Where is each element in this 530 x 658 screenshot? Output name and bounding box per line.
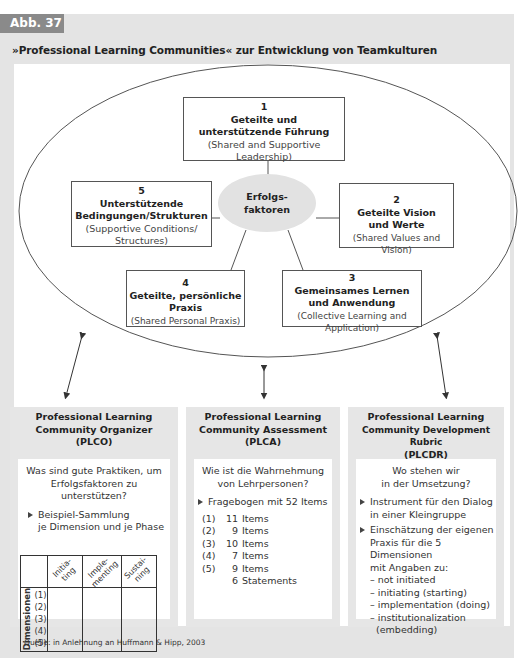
dimension-row-label: (3) bbox=[35, 613, 47, 625]
question-line: Wo stehen wir bbox=[356, 465, 496, 478]
panel-title-line: Community Assessment bbox=[186, 424, 340, 437]
panel-title-line: Professional Learning bbox=[348, 411, 504, 424]
dimension-label-en: (Shared and Supportive bbox=[184, 139, 344, 152]
panel-body: Was sind gute Praktiken, um Erfolgsfakto… bbox=[18, 459, 170, 619]
bullet-text: Praxis für die 5 Dimensionen bbox=[370, 537, 496, 562]
item-key: (2) bbox=[202, 525, 224, 538]
dimension-label-en: (Shared Personal Praxis) bbox=[127, 315, 244, 328]
center-node-erfolgsfaktoren: Erfolgs- faktoren bbox=[218, 174, 316, 232]
dimension-box-1: 1 Geteilte und unterstützende Führung (S… bbox=[183, 97, 345, 161]
bullet-text: Fragebogen mit 52 Items bbox=[208, 496, 332, 509]
dimension-box-5: 5 Unterstützende Bedingungen/Strukturen … bbox=[71, 181, 212, 247]
dimension-label-en: Application) bbox=[283, 322, 421, 335]
table-header-initiating: Initia-ting bbox=[48, 556, 83, 588]
dimension-number: 1 bbox=[184, 101, 344, 114]
dimension-label-en: (Collective Learning and bbox=[283, 310, 421, 323]
item-label: Items bbox=[242, 513, 269, 526]
panel-body: Wo stehen wir in der Umsetzung? Instrume… bbox=[356, 459, 496, 619]
dimension-number: 3 bbox=[283, 272, 421, 285]
dimension-label-de: und Werte bbox=[340, 219, 453, 232]
item-count: 9 bbox=[224, 525, 238, 538]
item-count: 7 bbox=[224, 550, 238, 563]
dimension-box-3: 3 Gemeinsames Lernen und Anwendung (Coll… bbox=[282, 270, 422, 327]
item-label: Items bbox=[242, 538, 269, 551]
question-line: Erfolgsfaktoren zu unterstützen? bbox=[18, 478, 170, 503]
item-list: (1)11Items (2)9Items (3)10Items (4)7Item… bbox=[202, 513, 332, 588]
dimension-label-de: Geteilte und bbox=[184, 114, 344, 127]
item-count: 6 bbox=[224, 575, 238, 588]
item-row: 6Statements bbox=[202, 575, 332, 588]
question-line: von Lehrpersonen? bbox=[194, 478, 332, 491]
item-key: (4) bbox=[202, 550, 224, 563]
dimension-label-de: Geteilte, persönliche bbox=[127, 290, 244, 303]
panel-title-line: Professional Learning bbox=[186, 411, 340, 424]
item-label: Items bbox=[242, 525, 269, 538]
dimension-label-en: (Supportive Conditions/ bbox=[72, 223, 211, 236]
panel-title: Professional Learning Community Organize… bbox=[10, 407, 178, 449]
level-item: – not initiated bbox=[370, 574, 496, 587]
panel-title-line: Professional Learning bbox=[10, 411, 178, 424]
item-count: 10 bbox=[224, 538, 238, 551]
level-item: – implementation (doing) bbox=[370, 599, 496, 612]
item-row: (1)11Items bbox=[202, 513, 332, 526]
table-corner-cell bbox=[21, 556, 48, 588]
panel-plca: Professional Learning Community Assessme… bbox=[186, 407, 340, 627]
dimension-label-de: Bedingungen/Strukturen bbox=[72, 210, 211, 223]
question-line: in der Umsetzung? bbox=[356, 478, 496, 491]
dimension-label-de: Unterstützende bbox=[72, 198, 211, 211]
center-node-label: faktoren bbox=[244, 203, 290, 216]
bullet-item: Einschätzung der eigenen Praxis für die … bbox=[356, 524, 496, 637]
item-row: (5)9Items bbox=[202, 563, 332, 576]
dimension-box-4: 4 Geteilte, persönliche Praxis (Shared P… bbox=[126, 270, 245, 327]
bullet-text: je Dimension und je Phase bbox=[38, 521, 170, 534]
item-key: (5) bbox=[202, 563, 224, 576]
center-node-label: Erfolgs- bbox=[246, 190, 288, 203]
dimension-label-de: und Anwendung bbox=[283, 297, 421, 310]
item-key: (3) bbox=[202, 538, 224, 551]
panel-title-line: Community Development Rubric bbox=[348, 424, 504, 449]
arrow-plcdr bbox=[437, 336, 446, 396]
figure-source: Quelle: in Anlehnung an Huffmann & Hipp,… bbox=[24, 638, 205, 647]
dimension-number: 2 bbox=[340, 194, 453, 207]
item-row: (4)7Items bbox=[202, 550, 332, 563]
dimension-label-de: Gemeinsames Lernen bbox=[283, 285, 421, 298]
level-item: – institutionalization bbox=[370, 612, 496, 625]
question-line: Wie ist die Wahrnehmung bbox=[194, 465, 332, 478]
dimension-number: 4 bbox=[127, 277, 244, 290]
table-header-implementing: Imple-menting bbox=[83, 556, 122, 588]
dimension-row-label: (1) bbox=[35, 589, 47, 601]
bullet-item: Beispiel-Sammlung je Dimension und je Ph… bbox=[24, 509, 170, 534]
dimension-number: 5 bbox=[72, 185, 211, 198]
dimension-label-de: Geteilte Vision bbox=[340, 207, 453, 220]
dimension-label-de: Praxis bbox=[127, 302, 244, 315]
level-item: (embedding) bbox=[370, 624, 496, 637]
dimension-row-label: (4) bbox=[35, 625, 47, 637]
dimension-label-en: Structures) bbox=[72, 235, 211, 248]
item-label: Items bbox=[242, 550, 269, 563]
panel-question: Was sind gute Praktiken, um Erfolgsfakto… bbox=[18, 465, 170, 503]
bullet-text: mit Angaben zu: bbox=[370, 562, 496, 575]
panel-title-line: (PLCO) bbox=[10, 436, 178, 449]
arrow-plco bbox=[66, 336, 82, 396]
panel-title: Professional Learning Community Assessme… bbox=[186, 407, 340, 449]
level-item: – initiating (starting) bbox=[370, 587, 496, 600]
bullet-item: Fragebogen mit 52 Items bbox=[194, 496, 332, 509]
bullet-item: Instrument für den Dialog in einer Klein… bbox=[356, 496, 496, 521]
panel-question: Wo stehen wir in der Umsetzung? bbox=[356, 465, 496, 490]
item-count: 11 bbox=[224, 513, 238, 526]
panel-title-line: (PLCA) bbox=[186, 436, 340, 449]
item-row: (2)9Items bbox=[202, 525, 332, 538]
item-key: (1) bbox=[202, 513, 224, 526]
panel-plcdr: Professional Learning Community Developm… bbox=[348, 407, 504, 627]
bullet-text: Instrument für den Dialog bbox=[370, 496, 496, 509]
bullet-text: Beispiel-Sammlung bbox=[38, 509, 170, 522]
panel-title-line: Community Organizer bbox=[10, 424, 178, 437]
item-count: 9 bbox=[224, 563, 238, 576]
item-label: Items bbox=[242, 563, 269, 576]
bullet-text: Einschätzung der eigenen bbox=[370, 524, 496, 537]
dimension-box-2: 2 Geteilte Vision und Werte (Shared Valu… bbox=[339, 183, 454, 248]
dimension-label-en: (Shared Values and Vision) bbox=[340, 232, 453, 257]
item-row: (3)10Items bbox=[202, 538, 332, 551]
panel-body: Wie ist die Wahrnehmung von Lehrpersonen… bbox=[194, 459, 332, 619]
panel-title: Professional Learning Community Developm… bbox=[348, 407, 504, 461]
